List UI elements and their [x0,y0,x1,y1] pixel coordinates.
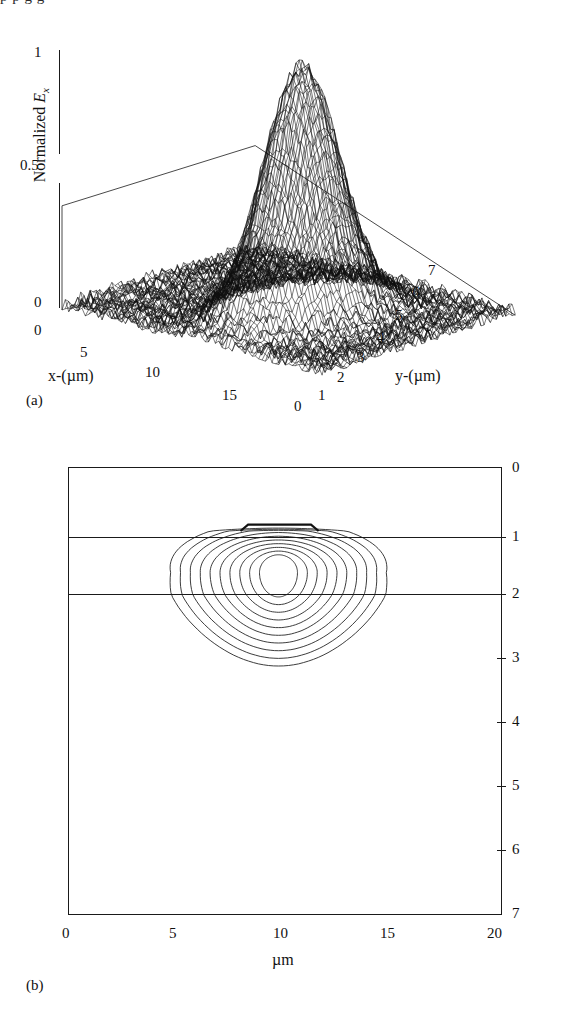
panel-b-ytick-1: 1 [512,529,520,544]
panel-b-ytick-3: 3 [512,650,520,665]
panel-b-ytick-4: 4 [512,714,520,729]
panel-b-ytick-2: 2 [512,586,520,601]
panel-b-xtick-10: 10 [273,926,288,941]
panel-b-ytick-5: 5 [512,778,520,793]
panel-b-ytick-mark-2 [497,594,506,595]
panel-b-xtick-0: 0 [62,926,70,941]
surface-mesh-plot [0,20,571,415]
panel-a-3d-surface: Normalized Ex 1 0.5 0 0 5 10 15 x-(µm) 0… [0,20,571,415]
panel-b-xtick-15: 15 [380,926,395,941]
panel-b-xtick-20: 20 [487,926,502,941]
panel-b-ytick-mark-4 [497,722,506,723]
panel-b-ytick-mark-6 [497,850,506,851]
panel-b-xtick-5: 5 [169,926,177,941]
panel-b-tag: (b) [26,977,44,994]
panel-b-ytick-7: 7 [512,906,520,921]
figure-root: p p g g Normalized Ex 1 0.5 0 0 5 10 15 … [0,0,571,1019]
panel-b-ytick-6: 6 [512,842,520,857]
panel-b-ytick-mark-3 [497,658,506,659]
panel-b-ytick-0: 0 [512,460,520,475]
panel-a-tag: (a) [26,392,43,409]
panel-b-x-axis-label: µm [272,952,294,968]
panel-b-contour-plot: 0 1 2 3 4 5 6 7 0 5 10 15 20 µm (b) [0,440,571,1019]
clipped-caption-remnant: p p g g [0,0,571,4]
panel-b-ytick-mark-1 [497,537,506,538]
panel-b-ytick-mark-5 [497,786,506,787]
